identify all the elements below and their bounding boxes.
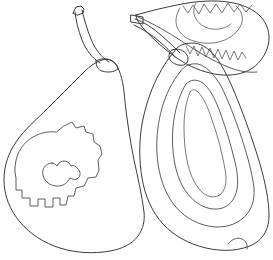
pear-drawing-canvas: Two Pears Line Drawing Black and white o… bbox=[0, 0, 273, 260]
line-art-svg bbox=[0, 0, 273, 260]
paper-background bbox=[0, 0, 273, 260]
